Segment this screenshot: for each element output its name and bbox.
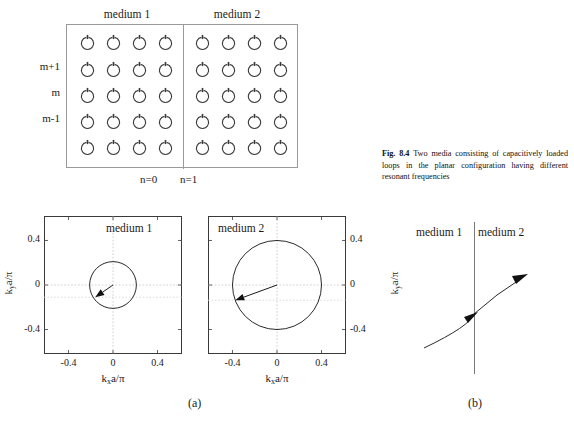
lattice-medium-divider	[183, 25, 184, 169]
lattice-row-label: m+1	[18, 60, 60, 72]
x-tick-label: 0.4	[305, 357, 339, 368]
loop-element	[79, 34, 96, 51]
loop-element	[194, 87, 211, 104]
loop-element	[272, 87, 289, 104]
loop-element	[220, 113, 237, 130]
loop-element	[79, 139, 96, 156]
loop-element	[105, 87, 122, 104]
y-axis-label: kya/π	[2, 256, 16, 310]
loop-element	[131, 139, 148, 156]
y-tick-label: 0	[350, 278, 376, 289]
loop-element	[157, 113, 174, 130]
y-tick-label: -0.4	[14, 323, 40, 334]
loop-element	[194, 34, 211, 51]
lattice-medium2-label: medium 2	[182, 8, 292, 20]
loop-element	[105, 61, 122, 78]
lattice-column-label: n=1	[180, 173, 197, 185]
plot-title: medium 1	[106, 222, 152, 234]
loop-element	[272, 113, 289, 130]
figure-caption: Fig. 8.4 Two media consisting of capacit…	[382, 148, 568, 183]
loop-element	[105, 139, 122, 156]
loop-element	[246, 61, 263, 78]
loop-element	[131, 113, 148, 130]
loop-element	[246, 87, 263, 104]
loop-element	[194, 139, 211, 156]
x-tick-label: 0	[96, 357, 130, 368]
subpanel-b-label: (b)	[468, 396, 482, 411]
loop-element	[157, 61, 174, 78]
loop-element	[220, 87, 237, 104]
loop-element	[220, 139, 237, 156]
lattice-medium1-label: medium 1	[72, 8, 182, 20]
x-tick-label: -0.4	[215, 357, 249, 368]
loop-element	[131, 34, 148, 51]
lattice-row-label: m	[18, 86, 60, 98]
loop-element	[105, 34, 122, 51]
x-tick-label: -0.4	[51, 357, 85, 368]
loop-element	[105, 113, 122, 130]
panelb-ray-diagram	[418, 222, 544, 374]
loop-element	[194, 61, 211, 78]
plot-canvas	[208, 216, 346, 354]
loop-element	[157, 87, 174, 104]
loop-element	[246, 34, 263, 51]
loop-element	[131, 61, 148, 78]
plot-title: medium 2	[218, 222, 264, 234]
x-axis-label: kxa/π	[253, 372, 301, 386]
loop-element	[157, 139, 174, 156]
loop-element	[246, 139, 263, 156]
subpanel-a-label: (a)	[188, 396, 201, 411]
loop-element	[79, 87, 96, 104]
loop-element	[194, 113, 211, 130]
loop-element	[220, 34, 237, 51]
x-tick-label: 0.4	[141, 357, 175, 368]
loop-element	[131, 87, 148, 104]
y-axis-label: kya/π	[388, 256, 402, 310]
x-axis-label: kxa/π	[89, 372, 137, 386]
y-tick-label: 0.4	[14, 233, 40, 244]
x-tick-label: 0	[260, 357, 294, 368]
y-tick-label: 0	[14, 278, 40, 289]
lattice-diagram	[66, 24, 298, 168]
lattice-column-label: n=0	[140, 173, 157, 185]
figure-caption-label: Fig. 8.4	[382, 149, 409, 158]
loop-element	[79, 61, 96, 78]
loop-element	[220, 61, 237, 78]
plot-canvas	[44, 216, 182, 354]
loop-element	[272, 139, 289, 156]
y-tick-label: 0.4	[350, 233, 376, 244]
loop-element	[79, 113, 96, 130]
loop-element	[272, 61, 289, 78]
loop-element	[272, 34, 289, 51]
loop-element	[246, 113, 263, 130]
y-tick-label: -0.4	[350, 323, 376, 334]
refracted-ray-svg	[418, 222, 544, 374]
loop-element	[157, 34, 174, 51]
lattice-row-label: m-1	[18, 112, 60, 124]
figure-caption-text: Two media consisting of capacitively loa…	[382, 149, 568, 181]
